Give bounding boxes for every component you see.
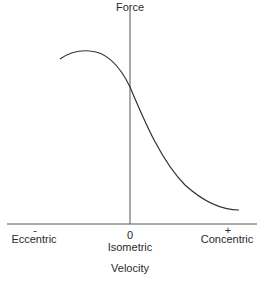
y-axis-label: Force bbox=[116, 1, 144, 13]
isometric-label: Isometric bbox=[108, 241, 153, 253]
x-axis-label: Velocity bbox=[111, 262, 149, 274]
zero-tick-label: 0 bbox=[127, 229, 133, 241]
force-velocity-curve bbox=[60, 51, 239, 210]
concentric-label: Concentric bbox=[201, 233, 254, 245]
eccentric-label: Eccentric bbox=[11, 233, 56, 245]
